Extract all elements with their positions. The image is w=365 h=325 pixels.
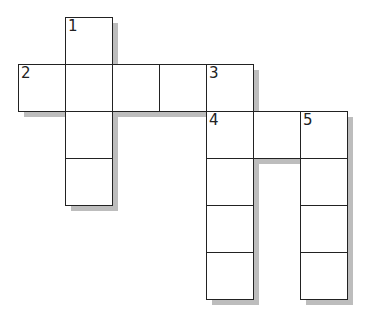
- crossword-cell[interactable]: [206, 252, 254, 300]
- clue-number: 1: [68, 18, 78, 35]
- clue-number: 2: [21, 65, 31, 82]
- crossword-cell[interactable]: [112, 64, 160, 112]
- crossword-cell[interactable]: [206, 158, 254, 206]
- crossword-cell[interactable]: [206, 205, 254, 253]
- crossword-cell[interactable]: [65, 111, 113, 159]
- crossword-cell[interactable]: [300, 205, 348, 253]
- clue-number: 4: [209, 112, 219, 129]
- crossword-grid: 12345: [0, 0, 365, 325]
- crossword-cell[interactable]: [159, 64, 207, 112]
- crossword-cell[interactable]: [300, 252, 348, 300]
- crossword-cell[interactable]: [65, 64, 113, 112]
- crossword-cell[interactable]: [300, 158, 348, 206]
- crossword-cell-4[interactable]: 4: [206, 111, 254, 159]
- clue-number: 5: [303, 112, 313, 129]
- crossword-cell[interactable]: [65, 158, 113, 206]
- crossword-cell-3[interactable]: 3: [206, 64, 254, 112]
- crossword-cell-2[interactable]: 2: [18, 64, 66, 112]
- crossword-cell-1[interactable]: 1: [65, 17, 113, 65]
- clue-number: 3: [209, 65, 219, 82]
- crossword-cell-5[interactable]: 5: [300, 111, 348, 159]
- crossword-cell[interactable]: [253, 111, 301, 159]
